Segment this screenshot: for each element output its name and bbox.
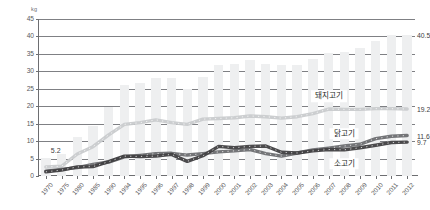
x-tick-label: 1990 (102, 181, 117, 196)
y-tick-label: 40 (27, 33, 34, 40)
x-tick-label: 1999 (196, 181, 211, 196)
x-tick-mark (172, 176, 173, 179)
x-tick-mark (360, 176, 361, 179)
x-tick-label: 2001 (228, 181, 243, 196)
y-tick-label: 45 (27, 16, 34, 23)
x-tick-label: 2012 (401, 181, 416, 196)
x-tick-label: 2008 (338, 181, 353, 196)
y-tick-label: 10 (27, 138, 34, 145)
x-tick-label: 2005 (291, 181, 306, 196)
y-tick-label: 20 (27, 103, 34, 110)
y-tick-label: 30 (27, 68, 34, 75)
x-tick-label: 1970 (39, 181, 54, 196)
x-tick-label: 1994 (118, 181, 133, 196)
x-tick-label: 2003 (259, 181, 274, 196)
x-tick-mark (407, 176, 408, 179)
x-tick-label: 1975 (55, 181, 70, 196)
x-tick-label: 2007 (322, 181, 337, 196)
x-tick-label: 1996 (149, 181, 164, 196)
series-lines (38, 19, 415, 176)
x-tick-label: 1997 (165, 181, 180, 196)
x-tick-mark (124, 176, 125, 179)
x-tick-label: 1995 (134, 181, 149, 196)
x-tick-mark (109, 176, 110, 179)
y-tick-label: 35 (27, 51, 34, 58)
x-tick-label: 1985 (86, 181, 101, 196)
end-value-beef: 9.7 (417, 139, 426, 146)
x-tick-label: 2006 (306, 181, 321, 196)
x-tick-mark (187, 176, 188, 179)
x-tick-mark (219, 176, 220, 179)
x-tick-mark (140, 176, 141, 179)
x-tick-mark (266, 176, 267, 179)
x-tick-mark (156, 176, 157, 179)
annotation-total-value: 40.5 (417, 31, 430, 38)
y-axis-unit-label: kg (31, 6, 37, 12)
x-tick-mark (62, 176, 63, 179)
end-value-pork: 19.2 (417, 106, 430, 113)
series-label-chicken: 닭고기 (330, 128, 359, 140)
x-tick-mark (203, 176, 204, 179)
y-tick-mark (36, 176, 39, 177)
x-tick-mark (376, 176, 377, 179)
x-tick-mark (46, 176, 47, 179)
x-tick-mark (281, 176, 282, 179)
x-tick-label: 1980 (71, 181, 86, 196)
x-tick-label: 2002 (244, 181, 259, 196)
x-tick-mark (329, 176, 330, 179)
x-tick-label: 1998 (181, 181, 196, 196)
plot-area: 0510152025303540451970197519801985199019… (38, 19, 415, 176)
x-tick-label: 2009 (354, 181, 369, 196)
x-tick-mark (250, 176, 251, 179)
x-tick-label: 2010 (369, 181, 384, 196)
x-tick-mark (391, 176, 392, 179)
annotation-start-value: 5.2 (51, 147, 61, 154)
y-tick-label: 5 (30, 155, 34, 162)
series-label-beef: 소고기 (330, 158, 359, 170)
x-tick-mark (234, 176, 235, 179)
x-tick-mark (297, 176, 298, 179)
x-tick-mark (93, 176, 94, 179)
x-tick-mark (313, 176, 314, 179)
y-tick-label: 0 (30, 173, 34, 180)
x-tick-mark (77, 176, 78, 179)
x-tick-mark (344, 176, 345, 179)
series-label-pork: 돼지고기 (311, 90, 347, 102)
x-tick-label: 2011 (385, 181, 399, 196)
x-tick-label: 2004 (275, 181, 290, 196)
x-tick-label: 2000 (212, 181, 227, 196)
y-tick-label: 15 (27, 120, 34, 127)
y-tick-label: 25 (27, 85, 34, 92)
